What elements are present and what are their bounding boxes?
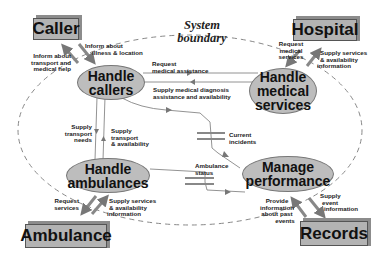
flow-label-provide-past-events: Provide information about past events xyxy=(254,198,300,224)
process-handle-medical-services[interactable]: Handlemedicalservices xyxy=(249,68,317,114)
flow-label-request-services: Request services xyxy=(44,198,79,211)
external-caller[interactable]: Caller xyxy=(33,18,79,40)
flow-supply-transport-availability xyxy=(103,97,105,160)
flow-label-supply-transport-needs: Supply transport needs xyxy=(57,124,92,144)
flow-arrow-to-ambulance xyxy=(84,196,96,211)
system-boundary-label: System boundary xyxy=(172,19,232,45)
flow-label-supply-event-info: Supply event information xyxy=(318,193,358,213)
flow-label-request-medical-assistance: Request medical assistance xyxy=(152,61,208,74)
store-label-ambulance-status: Ambulance status xyxy=(195,163,228,176)
flow-label-inform-illness: Inform about illness & location xyxy=(85,43,143,56)
flow-label-inform-transport: Inform about transport and medical help xyxy=(22,53,71,73)
store-label-current-incidents: Current incidents xyxy=(229,132,256,145)
flow-label-ambulance-supply: Supply services & availability informati… xyxy=(107,198,156,218)
flow-label-supply-transport-availability: Supply transport & availability xyxy=(111,128,149,148)
external-records[interactable]: Records xyxy=(300,221,368,246)
flow-supply-transport-needs xyxy=(95,97,97,160)
external-hospital[interactable]: Hospital xyxy=(293,19,357,41)
flow-label-request-medical-services: Request medical services xyxy=(268,41,314,61)
flow-label-hospital-supply: Supply services & availability informati… xyxy=(317,50,367,70)
flow-label-supply-diagnosis: Supply medical diagnosis assistance and … xyxy=(153,87,231,100)
process-handle-callers[interactable]: Handlecallers xyxy=(77,65,145,100)
process-manage-performance[interactable]: Manageperformance xyxy=(242,156,334,192)
flow-arrow-from-ambulance xyxy=(92,199,105,214)
process-handle-ambulances[interactable]: Handleambulances xyxy=(66,158,150,193)
external-ambulance[interactable]: Ambulance xyxy=(25,224,107,248)
